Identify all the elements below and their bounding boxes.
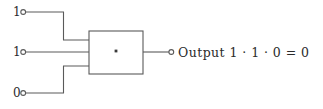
wire-input-2	[26, 66, 89, 93]
terminal-output-icon	[169, 50, 174, 55]
and-gate-body	[89, 31, 143, 74]
logic-gate-diagram: 1 1 0 Output 1 · 1 · 0 = 0	[0, 0, 323, 109]
input-0-label: 1	[13, 6, 21, 18]
and-operator-dot-icon	[115, 50, 118, 53]
terminal-input-0-icon	[21, 10, 26, 15]
input-1-label: 1	[13, 46, 21, 58]
output-expression-label: Output 1 · 1 · 0 = 0	[178, 46, 309, 59]
input-2-label: 0	[13, 87, 21, 99]
terminal-input-2-icon	[21, 91, 26, 96]
wire-input-0	[26, 12, 89, 40]
terminal-input-1-icon	[21, 50, 26, 55]
